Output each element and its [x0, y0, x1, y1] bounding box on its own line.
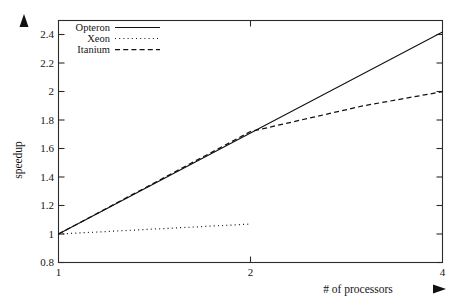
y-tick-label: 2.2	[40, 57, 54, 69]
y-axis-ticks	[59, 35, 65, 263]
legend-label-itanium: Itanium	[77, 44, 110, 55]
chart-canvas: 0.8 1 1.2 1.4 1.6 1.8 2 2.2 2.4 1 2 4 sp…	[0, 0, 465, 303]
legend-label-xeon: Xeon	[87, 33, 110, 44]
legend: Opteron Xeon Itanium	[76, 22, 160, 55]
y-tick-label: 1.4	[40, 171, 54, 183]
y-tick-label: 2.4	[40, 28, 54, 40]
y-tick-label: 1	[49, 228, 55, 240]
legend-label-opteron: Opteron	[76, 22, 111, 33]
y-axis-ticks-right	[437, 35, 443, 263]
speedup-chart: 0.8 1 1.2 1.4 1.6 1.8 2 2.2 2.4 1 2 4 sp…	[0, 0, 465, 303]
y-tick-label: 1.8	[40, 114, 54, 126]
y-tick-label: 1.2	[40, 199, 54, 211]
y-axis-up-arrow-icon	[20, 14, 29, 27]
series-line-opteron	[59, 32, 443, 234]
x-tick-label: 2	[248, 266, 254, 278]
y-tick-label: 2	[49, 85, 55, 97]
plot-frame	[59, 21, 443, 263]
series-line-xeon	[59, 224, 251, 234]
y-tick-labels: 0.8 1 1.2 1.4 1.6 1.8 2 2.2 2.4	[40, 28, 54, 268]
x-axis-right-arrow-icon	[433, 285, 446, 294]
y-tick-label: 1.6	[40, 142, 54, 154]
y-axis-title: speedup	[12, 141, 25, 179]
series-line-itanium	[59, 92, 443, 234]
x-tick-label: 1	[56, 266, 62, 278]
y-tick-label: 0.8	[40, 256, 54, 268]
x-axis-title: # of processors	[323, 283, 393, 296]
x-tick-label: 4	[440, 266, 446, 278]
x-tick-labels: 1 2 4	[56, 266, 446, 278]
